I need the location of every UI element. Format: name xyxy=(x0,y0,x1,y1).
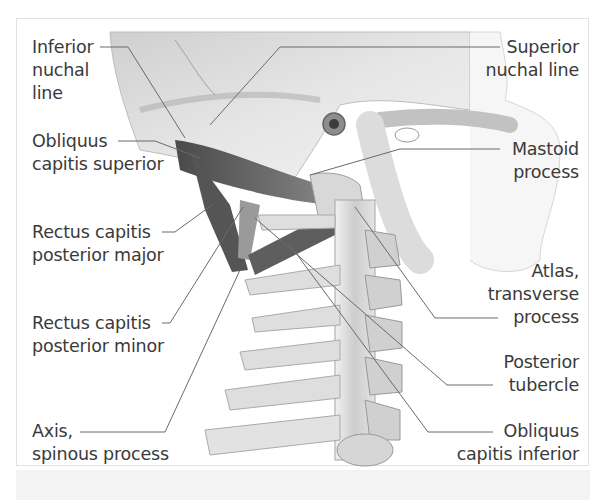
label-rectus-capitis-posterior-minor: Rectus capitis posterior minor xyxy=(32,312,164,358)
label-mastoid-process: Mastoid process xyxy=(512,138,579,184)
label-posterior-tubercle: Posterior tubercle xyxy=(503,351,579,397)
label-atlas-transverse-process: Atlas, transverse process xyxy=(488,260,579,329)
label-axis-spinous-process: Axis, spinous process xyxy=(32,420,169,466)
label-obliquus-capitis-inferior: Obliquus capitis inferior xyxy=(457,420,579,466)
label-superior-nuchal-line: Superior nuchal line xyxy=(486,36,579,82)
label-rectus-capitis-posterior-major: Rectus capitis posterior major xyxy=(32,221,164,267)
label-inferior-nuchal-line: Inferior nuchal line xyxy=(32,36,94,105)
label-obliquus-capitis-superior: Obliquus capitis superior xyxy=(32,130,164,176)
leader-rectus-capitis-posterior-major xyxy=(162,205,212,232)
skull-occipital xyxy=(110,32,470,185)
